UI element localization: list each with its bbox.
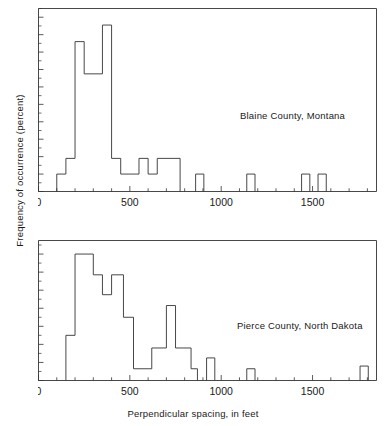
x-tick-label: 1500 bbox=[301, 196, 325, 208]
histogram-outline bbox=[66, 254, 368, 380]
histogram-outline bbox=[57, 25, 326, 191]
chart-annotation-pierce-county: Pierce County, North Dakota bbox=[237, 320, 363, 331]
x-tick-label: 500 bbox=[121, 385, 139, 397]
figure-histogram-pair: Frequency of occurrence (percent) 050010… bbox=[0, 0, 386, 426]
x-tick-label: 500 bbox=[121, 196, 139, 208]
x-tick-label: 1500 bbox=[301, 385, 325, 397]
axis-frame bbox=[39, 9, 377, 192]
axis-frame bbox=[39, 241, 377, 381]
x-tick-label: 1000 bbox=[210, 196, 234, 208]
x-tick-label: 0 bbox=[38, 196, 42, 208]
y-axis-label: Frequency of occurrence (percent) bbox=[14, 56, 25, 286]
x-axis-label: Perpendicular spacing, in feet bbox=[0, 408, 386, 419]
x-tick-label: 0 bbox=[38, 385, 42, 397]
chart-annotation-blaine-county: Blaine County, Montana bbox=[240, 110, 345, 121]
x-tick-label: 1000 bbox=[210, 385, 234, 397]
